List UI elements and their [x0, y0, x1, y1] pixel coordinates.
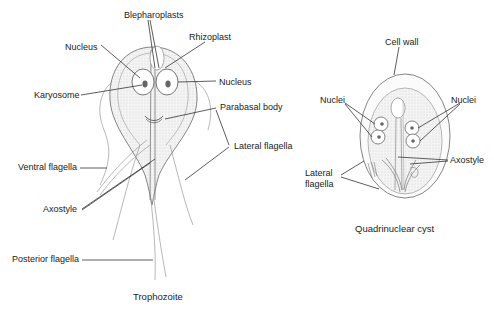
label-blepharoplasts: Blepharoplasts — [124, 10, 184, 20]
label-nuclei-left: Nuclei — [320, 95, 345, 105]
label-nucleus-left: Nucleus — [65, 42, 98, 52]
label-axostyle: Axostyle — [43, 204, 77, 214]
label-rhizoplast: Rhizoplast — [189, 32, 231, 42]
label-nuclei-right: Nuclei — [451, 95, 476, 105]
trophozoite-drawing — [97, 46, 211, 280]
label-cyst-axostyle: Axostyle — [450, 155, 484, 165]
label-lateral-flagella: Lateral flagella — [234, 141, 293, 151]
label-ventral-flagella: Ventral flagella — [18, 162, 77, 172]
label-cyst-lateral-flagella-2: flagella — [305, 179, 334, 189]
caption-trophozoite: Trophozoite — [133, 291, 183, 302]
label-cyst-lateral-flagella-1: Lateral — [305, 168, 333, 178]
label-karyosome: Karyosome — [34, 90, 80, 100]
label-cell-wall: Cell wall — [385, 37, 419, 47]
label-posterior-flagella: Posterior flagella — [12, 254, 79, 264]
label-parabasal-body: Parabasal body — [220, 102, 283, 112]
cyst-drawing — [360, 74, 450, 198]
caption-quadrinuclear-cyst: Quadrinuclear cyst — [355, 223, 434, 234]
label-nucleus-right: Nucleus — [219, 77, 252, 87]
